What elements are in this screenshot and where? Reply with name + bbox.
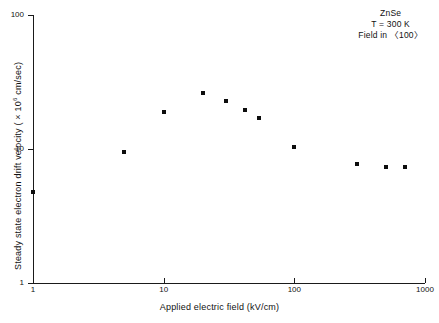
data-point	[355, 162, 359, 166]
data-point	[201, 91, 205, 95]
chart-figure: 1101001101001000 Steady state electron d…	[0, 0, 439, 323]
plot-area	[0, 0, 439, 323]
y-axis-title-exponent: 6	[12, 98, 18, 102]
chart-annotation: ZnSe T = 300 K Field in 〈100〉	[358, 8, 423, 41]
data-point	[243, 108, 247, 112]
y-axis-title: Steady state electron drift velocity ( ×…	[13, 62, 23, 270]
annotation-line-orientation: Field in 〈100〉	[358, 30, 423, 41]
y-axis-title-suffix: cm/sec)	[13, 62, 23, 98]
data-point	[31, 190, 35, 194]
data-point	[162, 110, 166, 114]
y-axis-title-prefix: Steady state electron drift velocity ( ×…	[13, 101, 23, 270]
annotation-line-temperature: T = 300 K	[358, 19, 423, 30]
data-point	[122, 150, 126, 154]
annotation-line-material: ZnSe	[358, 8, 423, 19]
data-point	[403, 165, 407, 169]
data-point	[257, 116, 261, 120]
data-point	[384, 165, 388, 169]
data-point	[292, 145, 296, 149]
data-point	[224, 99, 228, 103]
x-axis-title: Applied electric field (kV/cm)	[0, 302, 439, 312]
